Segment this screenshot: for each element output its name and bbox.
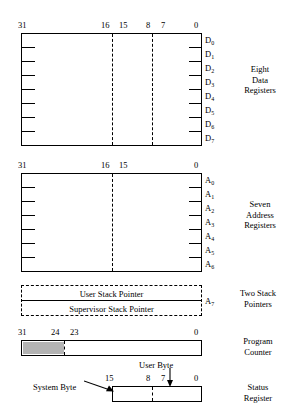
addr-row-tick-right-2 bbox=[189, 201, 202, 202]
supervisor-stack-pointer-label: Supervisor Stack Pointer bbox=[21, 305, 202, 314]
program-counter-caption: Program Counter bbox=[222, 336, 294, 357]
addr-row-tick-right-4 bbox=[189, 229, 202, 230]
stack-pointers-caption: Two Stack Pointers bbox=[222, 288, 294, 309]
register-label-a3: A3 bbox=[205, 218, 214, 227]
data-bit-label-8: 8 bbox=[146, 21, 150, 30]
register-label-d0: D0 bbox=[205, 36, 214, 45]
data-row-tick-right-3 bbox=[189, 75, 202, 76]
register-label-d7: D7 bbox=[205, 134, 214, 143]
data-row-tick-right-1 bbox=[189, 47, 202, 48]
register-label-d3: D3 bbox=[205, 78, 214, 87]
pc-separator-24-23 bbox=[64, 341, 65, 355]
data-separator-16-15 bbox=[112, 34, 113, 145]
register-label-a0: A0 bbox=[205, 176, 214, 185]
addr-row-tick-left-4 bbox=[22, 229, 35, 230]
register-label-d4: D4 bbox=[205, 92, 214, 101]
address-registers-caption-line-3: Registers bbox=[228, 220, 292, 231]
addr-row-tick-left-2 bbox=[22, 201, 35, 202]
register-label-d2: D2 bbox=[205, 64, 214, 73]
program-counter-shaded-field bbox=[23, 342, 64, 354]
register-label-a7: A7 bbox=[205, 297, 214, 306]
addr-row-tick-left-6 bbox=[22, 257, 35, 258]
register-label-a4: A4 bbox=[205, 232, 214, 241]
register-label-d5: D5 bbox=[205, 106, 214, 115]
data-row-tick-left-6 bbox=[22, 117, 35, 118]
register-label-a2: A2 bbox=[205, 204, 214, 213]
data-row-tick-left-7 bbox=[22, 131, 35, 132]
stack-pointer-divider bbox=[22, 300, 201, 301]
status-register-caption: Status Register bbox=[222, 382, 294, 403]
addr-bit-label-16: 16 bbox=[101, 161, 110, 170]
status-register-box bbox=[112, 386, 202, 402]
user-stack-pointer-label: User Stack Pointer bbox=[21, 290, 202, 299]
data-registers-caption-line-3: Registers bbox=[228, 85, 292, 96]
addr-row-tick-right-5 bbox=[189, 243, 202, 244]
addr-bit-label-31: 31 bbox=[18, 161, 27, 170]
pc-bit-label-0: 0 bbox=[194, 328, 198, 337]
address-registers-caption: Seven Address Registers bbox=[228, 199, 292, 231]
data-separator-8-7 bbox=[152, 34, 153, 145]
system-byte-leader-icon bbox=[84, 377, 116, 395]
data-row-tick-left-4 bbox=[22, 89, 35, 90]
addr-bit-label-0: 0 bbox=[194, 161, 198, 170]
user-byte-arrow-icon bbox=[160, 368, 180, 388]
register-label-a6: A6 bbox=[205, 260, 214, 269]
register-label-d1: D1 bbox=[205, 50, 214, 59]
data-registers-caption-line-1: Eight bbox=[228, 64, 292, 75]
data-row-tick-right-5 bbox=[189, 103, 202, 104]
pc-bit-label-24: 24 bbox=[51, 328, 60, 337]
data-row-tick-right-2 bbox=[189, 61, 202, 62]
pc-bit-label-31: 31 bbox=[18, 328, 27, 337]
data-row-tick-right-6 bbox=[189, 117, 202, 118]
address-registers-caption-line-1: Seven bbox=[228, 199, 292, 210]
addr-row-tick-right-1 bbox=[189, 187, 202, 188]
register-label-a1: A1 bbox=[205, 190, 214, 199]
status-register-caption-line-2: Register bbox=[222, 393, 294, 404]
data-row-tick-right-4 bbox=[189, 89, 202, 90]
data-row-tick-right-7 bbox=[189, 131, 202, 132]
pc-bit-label-23: 23 bbox=[70, 328, 79, 337]
system-byte-label: System Byte bbox=[33, 383, 76, 392]
address-registers-caption-line-2: Address bbox=[228, 210, 292, 221]
stack-pointers-caption-line-2: Pointers bbox=[222, 299, 294, 310]
addr-bit-label-15: 15 bbox=[119, 161, 128, 170]
data-bit-label-16: 16 bbox=[101, 21, 110, 30]
addr-row-tick-right-6 bbox=[189, 257, 202, 258]
program-counter-caption-line-1: Program bbox=[222, 336, 294, 347]
data-bit-label-15: 15 bbox=[119, 21, 128, 30]
sr-bit-label-0: 0 bbox=[194, 374, 198, 383]
data-row-tick-left-5 bbox=[22, 103, 35, 104]
stack-pointers-caption-line-1: Two Stack bbox=[222, 288, 294, 299]
sr-separator-8-7 bbox=[152, 387, 153, 401]
register-label-d6: D6 bbox=[205, 120, 214, 129]
data-row-tick-left-3 bbox=[22, 75, 35, 76]
program-counter-caption-line-2: Counter bbox=[222, 347, 294, 358]
data-row-tick-left-2 bbox=[22, 61, 35, 62]
data-row-tick-left-1 bbox=[22, 47, 35, 48]
data-registers-caption-line-2: Data bbox=[228, 75, 292, 86]
addr-separator-16-15 bbox=[112, 174, 113, 271]
status-register-caption-line-1: Status bbox=[222, 382, 294, 393]
data-bit-label-7: 7 bbox=[161, 21, 165, 30]
sr-bit-label-8: 8 bbox=[146, 374, 150, 383]
addr-row-tick-left-3 bbox=[22, 215, 35, 216]
data-bit-label-31: 31 bbox=[18, 21, 27, 30]
register-label-a5: A5 bbox=[205, 246, 214, 255]
addr-row-tick-left-1 bbox=[22, 187, 35, 188]
addr-row-tick-left-5 bbox=[22, 243, 35, 244]
data-bit-label-0: 0 bbox=[194, 21, 198, 30]
register-diagram: 31 16 15 8 7 0 D0 D1 D2 D3 D4 D5 D6 D7 E… bbox=[0, 0, 295, 408]
addr-row-tick-right-3 bbox=[189, 215, 202, 216]
data-registers-caption: Eight Data Registers bbox=[228, 64, 292, 96]
